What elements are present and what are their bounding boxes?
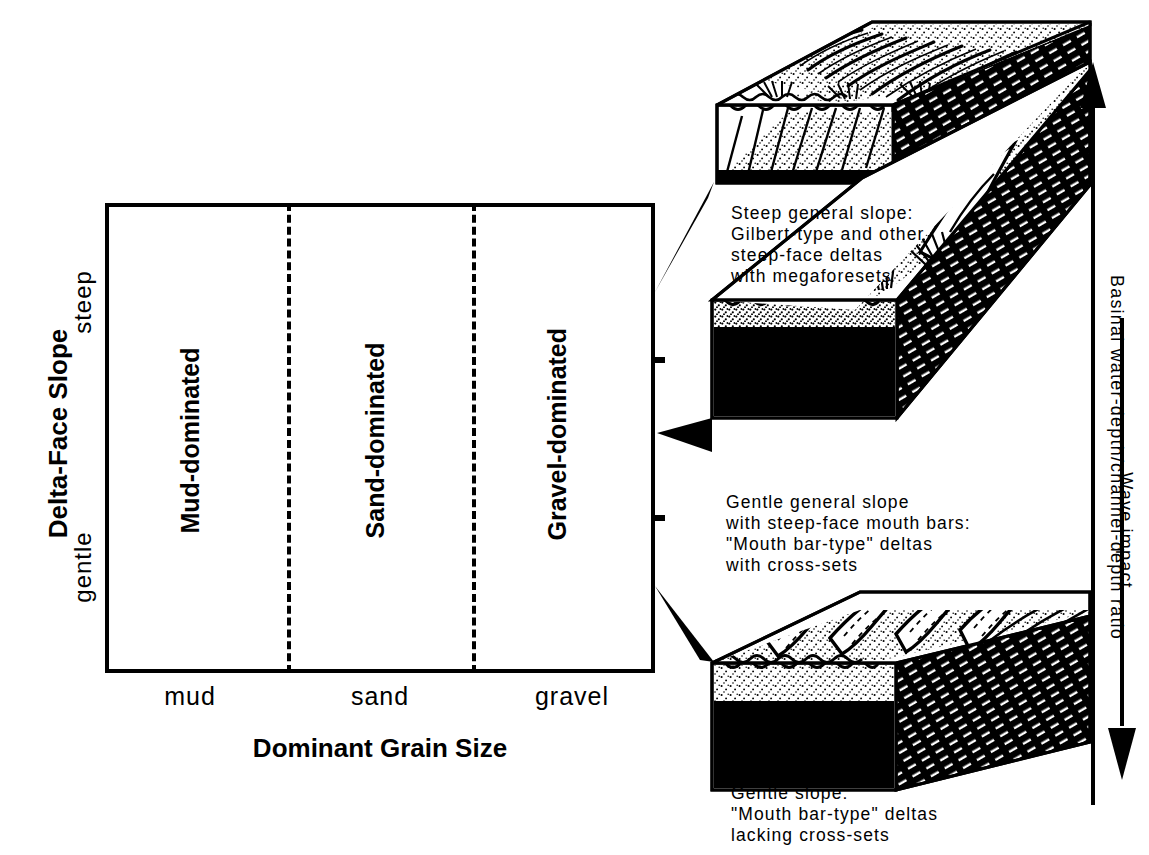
x-axis-label-mud: mud <box>140 682 240 711</box>
delta-classification-figure: Mud-dominated Sand-dominated Gravel-domi… <box>0 0 1149 855</box>
x-axis-title: Dominant Grain Size <box>0 733 760 764</box>
x-axis-label-sand: sand <box>330 682 430 711</box>
field-label-mud: Mud-dominated <box>176 341 205 541</box>
block-diagram-gentle-mouth-bar-no-cross-sets <box>712 586 1090 790</box>
divider-sand-gravel <box>472 203 476 673</box>
divider-mud-sand <box>287 203 291 673</box>
y-axis-label-gentle: gentle <box>69 518 97 616</box>
field-label-gravel: Gravel-dominated <box>543 341 572 541</box>
caption-block-gentle-cross-sets: Gentle general slope with steep-face mou… <box>726 492 971 576</box>
side-label-wave-impact: Wave impact <box>1115 451 1136 611</box>
caption-block-gentle-no-cross-sets: Gentle slope: "Mouth bar-type" deltas la… <box>731 783 938 846</box>
leader-arrow-top <box>655 182 714 292</box>
right-axis-tick-upper <box>651 357 665 363</box>
leader-arrow-bottom <box>655 586 714 662</box>
x-axis-label-gravel: gravel <box>512 682 632 711</box>
leader-arrow-middle <box>657 418 712 452</box>
leader-arrows <box>655 182 714 662</box>
field-label-sand: Sand-dominated <box>361 341 390 541</box>
caption-block-steep: Steep general slope: Gilbert-type and ot… <box>731 203 924 287</box>
right-axis-tick-lower <box>651 515 665 521</box>
y-axis-label-steep: steep <box>69 257 97 347</box>
